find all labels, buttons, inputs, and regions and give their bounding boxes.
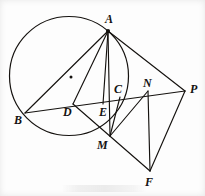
point-label-p: P [190,83,197,95]
vertex-dot-layer [106,29,110,33]
circle-center-dot [70,76,73,79]
geometry-figure: ABCDEFMNP [0,0,205,196]
point-label-b: B [14,114,22,126]
segment-D-F [73,104,150,171]
point-label-n: N [143,77,152,89]
segment-P-F [150,91,185,171]
point-label-m: M [97,139,108,151]
point-label-a: A [105,13,113,25]
point-label-c: C [114,83,122,95]
point-label-d: D [63,106,72,118]
vertex-dot-a [106,29,110,33]
geometry-canvas [0,0,205,196]
segment-A-B [25,31,108,113]
caption-smudge [62,185,146,192]
point-label-f: F [145,176,153,188]
segment-A-D [73,31,108,104]
segment-N-F [148,91,150,171]
segment-A-E [103,31,108,104]
point-label-e: E [99,106,107,118]
